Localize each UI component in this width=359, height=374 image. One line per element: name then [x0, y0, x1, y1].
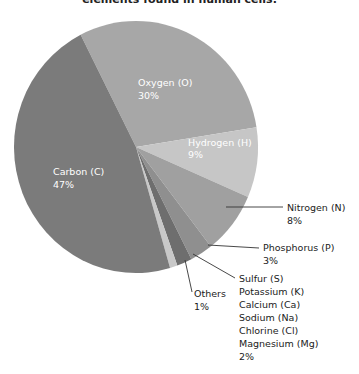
label-others-pct: 1% — [194, 301, 209, 312]
label-hydrogen-name: Hydrogen (H) — [188, 137, 252, 148]
label-sulfur: Sulfur (S) — [239, 273, 283, 284]
label-calcium: Calcium (Ca) — [239, 299, 300, 310]
label-nitrogen-name: Nitrogen (N) — [287, 202, 345, 213]
leader-line-sulfur — [193, 254, 235, 278]
label-phosphorus-pct: 3% — [263, 255, 278, 266]
label-oxygen-name: Oxygen (O) — [138, 77, 193, 88]
label-magnesium: Magnesium (Mg) — [239, 338, 318, 349]
label-oxygen-pct: 30% — [138, 90, 159, 101]
label-carbon-pct: 47% — [53, 179, 74, 190]
leader-line-phosphorus — [208, 245, 259, 248]
label-nitrogen-pct: 8% — [287, 215, 302, 226]
leader-line-others — [185, 260, 192, 292]
label-chlorine: Chlorine (Cl) — [239, 325, 298, 336]
label-sodium: Sodium (Na) — [239, 312, 298, 323]
pie-chart: Oxygen (O) 30% Hydrogen (H) 9% Carbon (C… — [0, 0, 359, 374]
label-others-name: Others — [194, 288, 226, 299]
label-carbon-name: Carbon (C) — [53, 166, 104, 177]
label-hydrogen-pct: 9% — [188, 149, 203, 160]
label-phosphorus-name: Phosphorus (P) — [263, 242, 334, 253]
label-sulfur-group-pct: 2% — [239, 351, 254, 362]
label-potassium: Potassium (K) — [239, 286, 304, 297]
